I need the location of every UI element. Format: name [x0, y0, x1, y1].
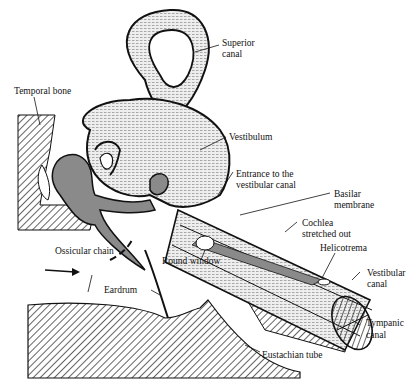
round-window — [196, 236, 214, 250]
label-vestibulum: Vestibulum — [229, 132, 273, 142]
ear-diagram: Superiorcanal Temporal bone Vestibulum E… — [0, 0, 416, 381]
label-ossicular-chain: Ossicular chain — [55, 246, 114, 256]
label-basilar-membrane: Basilarmembrane — [334, 189, 374, 210]
label-eustachian-tube: Eustachian tube — [262, 350, 322, 360]
label-round-window: Round window — [162, 256, 220, 266]
label-temporal-bone: Temporal bone — [14, 86, 71, 96]
label-superior-canal: Superiorcanal — [222, 38, 256, 59]
stapes — [150, 174, 168, 195]
label-cochlea-stretched-out: Cochleastretched out — [302, 218, 351, 239]
helicotrema-shape — [318, 279, 330, 285]
label-helicotrema: Helicotrema — [320, 243, 368, 253]
label-entrance-vestibular-canal: Entrance to thevestibular canal — [236, 169, 296, 190]
label-vestibular-canal: Vestibularcanal — [367, 268, 406, 289]
label-eardrum: Eardrum — [104, 285, 138, 295]
